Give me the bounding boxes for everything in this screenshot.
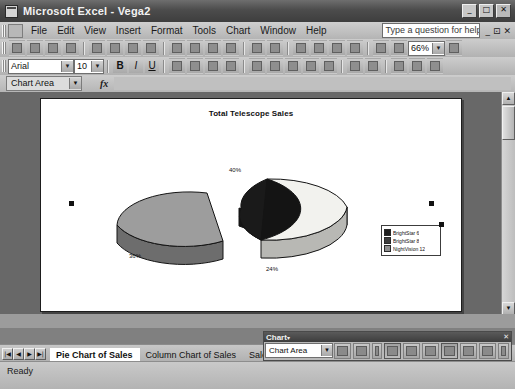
decrease-indent-icon[interactable] [347,58,363,74]
print-preview-icon[interactable] [107,40,123,56]
legend-icon[interactable] [384,343,401,359]
borders-icon[interactable] [391,58,407,74]
close-button[interactable]: ✕ [496,4,511,18]
chevron-down-icon[interactable]: ▼ [69,78,81,89]
save-icon[interactable] [45,40,61,56]
chart-title[interactable]: Total Telescope Sales [41,109,461,118]
prev-sheet-button[interactable]: ◀ [13,348,24,360]
align-center-icon[interactable] [187,58,203,74]
chart-toolbar[interactable]: Chart ▾ ✕ Chart Area ▼ [263,331,512,361]
selection-handle[interactable] [439,222,444,227]
font-size-combobox[interactable]: 10 ▼ [74,59,104,74]
mail-icon[interactable] [63,40,79,56]
menu-chart[interactable]: Chart [221,24,255,37]
menu-window[interactable]: Window [255,24,301,37]
name-box[interactable]: Chart Area ▼ [6,76,82,91]
scroll-up-button[interactable]: ▲ [502,92,515,105]
data-label-1[interactable]: 24% [266,266,278,272]
toolbar-options-icon[interactable] [498,343,509,359]
font-name-combobox[interactable]: Arial ▼ [8,59,74,74]
chevron-down-icon[interactable]: ▼ [432,43,444,54]
chart-toolbar-options-icon[interactable]: ▾ [287,334,290,341]
scrollbar-thumb[interactable] [502,106,515,140]
data-label-0[interactable]: 40% [229,167,241,173]
next-sheet-button[interactable]: ▶ [24,348,35,360]
sort-asc-icon[interactable] [329,40,345,56]
percent-icon[interactable] [267,58,283,74]
minimize-button[interactable]: _ [462,4,477,18]
chart-area[interactable]: Total Telescope Sales [40,98,462,312]
zoom-combobox[interactable]: 66% ▼ [408,41,445,56]
selection-handle[interactable] [429,201,434,206]
standard-toolbar-grip[interactable] [2,42,6,54]
autosum-icon[interactable] [311,40,327,56]
chart-type-icon[interactable] [353,343,370,359]
doc-close-button[interactable]: ✕ [503,26,511,36]
by-row-icon[interactable] [422,343,439,359]
menu-edit[interactable]: Edit [52,24,79,37]
font-color-icon[interactable] [427,58,443,74]
align-left-icon[interactable] [169,58,185,74]
menu-file[interactable]: File [26,24,52,37]
hyperlink-icon[interactable] [293,40,309,56]
first-sheet-button[interactable]: |◀ [2,348,13,360]
legend-entry[interactable]: BrightStar 8 [384,237,438,244]
data-table-icon[interactable] [403,343,420,359]
chevron-down-icon[interactable]: ▼ [91,61,103,72]
vertical-scrollbar[interactable]: ▲ ▼ [501,92,515,315]
formula-input[interactable] [114,77,511,90]
redo-icon[interactable] [267,40,283,56]
legend-entry[interactable]: NightVision 12 [384,245,438,252]
format-selection-icon[interactable] [334,343,351,359]
open-icon[interactable] [27,40,43,56]
merge-center-icon[interactable] [223,58,239,74]
copy-icon[interactable] [187,40,203,56]
selection-handle[interactable] [69,201,74,206]
drawing-icon[interactable] [391,40,407,56]
chevron-down-icon[interactable]: ▼ [321,345,332,356]
undo-icon[interactable] [249,40,265,56]
print-icon[interactable] [89,40,105,56]
pie-chart-graphic[interactable]: 40% 24% 36% [111,161,361,291]
formatting-toolbar-grip[interactable] [2,60,6,72]
comma-icon[interactable] [285,58,301,74]
document-icon[interactable] [8,24,23,38]
chart-type-dropdown-icon[interactable] [372,343,382,359]
cut-icon[interactable] [169,40,185,56]
menu-insert[interactable]: Insert [111,24,146,37]
paste-icon[interactable] [205,40,221,56]
doc-restore-button[interactable]: ⊡ [493,26,501,36]
angle-text-up-icon[interactable] [479,343,496,359]
last-sheet-button[interactable]: ▶| [35,348,46,360]
doc-minimize-button[interactable]: _ [485,26,490,36]
increase-decimal-icon[interactable] [303,58,319,74]
maximize-button[interactable]: □ [479,4,494,18]
angle-text-down-icon[interactable] [460,343,477,359]
chart-toolbar-titlebar[interactable]: Chart ▾ ✕ [264,332,511,342]
sheet-tab-pie-chart-of-sales[interactable]: Pie Chart of Sales [50,348,140,362]
align-right-icon[interactable] [205,58,221,74]
legend-entry[interactable]: BrightStar 6 [384,229,438,236]
data-label-2[interactable]: 36% [129,253,141,259]
spelling-icon[interactable] [125,40,141,56]
ask-a-question-input[interactable]: Type a question for help [382,23,480,38]
bold-button[interactable]: B [113,59,127,73]
menu-grip[interactable] [2,25,6,37]
currency-icon[interactable] [249,58,265,74]
research-icon[interactable] [143,40,159,56]
menu-tools[interactable]: Tools [188,24,221,37]
sort-desc-icon[interactable] [347,40,363,56]
chart-legend[interactable]: BrightStar 6 BrightStar 8 NightVision 12 [381,225,441,256]
chart-toolbar-close-icon[interactable]: ✕ [503,333,509,341]
fill-color-icon[interactable] [409,58,425,74]
increase-indent-icon[interactable] [365,58,381,74]
sheet-tab-column-chart-of-sales[interactable]: Column Chart of Sales [140,348,244,362]
chart-objects-combobox[interactable]: Chart Area ▼ [265,343,333,358]
decrease-decimal-icon[interactable] [321,58,337,74]
insert-function-icon[interactable]: fx [100,78,108,89]
by-column-icon[interactable] [441,343,458,359]
menu-format[interactable]: Format [146,24,188,37]
chart-wizard-icon[interactable] [373,40,389,56]
help-icon[interactable] [446,40,462,56]
new-icon[interactable] [9,40,25,56]
